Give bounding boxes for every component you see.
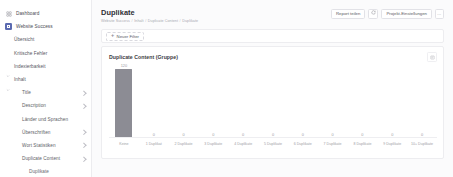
chart-bars: 1200000000000 — [109, 63, 437, 138]
sidebar-item-website-success[interactable]: Website Success — [0, 20, 91, 33]
bar-column[interactable]: 120 — [109, 63, 139, 138]
sidebar: DashboardWebsite SuccessÜbersichtKritisc… — [0, 0, 92, 177]
title-block: Duplikate Website Success/Inhalt/Duplica… — [101, 8, 331, 24]
bar[interactable] — [115, 69, 132, 138]
sidebar-item-überschriften[interactable]: Überschriften — [0, 126, 91, 139]
chart-title: Duplicate Content (Gruppe) — [109, 54, 178, 60]
bar-column[interactable]: 0 — [407, 63, 437, 138]
sidebar-item-description[interactable]: Description — [0, 99, 91, 112]
chevron-right-icon — [82, 156, 87, 161]
breadcrumb-item[interactable]: Inhalt — [134, 19, 143, 23]
sidebar-item-label: Indexierbarkeit — [14, 63, 46, 70]
app-root: DashboardWebsite SuccessÜbersichtKritisc… — [0, 0, 453, 177]
refresh-icon — [371, 9, 376, 19]
page-title: Duplikate — [101, 8, 331, 17]
sidebar-item-indexierbarkeit[interactable]: Indexierbarkeit — [0, 60, 91, 73]
share-report-button[interactable]: Report teilen — [331, 9, 365, 19]
sidebar-item-label: Title — [22, 89, 31, 96]
x-axis-tick-label: 9 Duplikate — [377, 142, 407, 146]
sidebar-item-duplikate[interactable]: Duplikate — [0, 165, 91, 177]
chevron-right-icon — [82, 143, 87, 148]
breadcrumb-item[interactable]: Duplicate Content — [148, 19, 178, 23]
bar-column[interactable]: 0 — [258, 63, 288, 138]
breadcrumb-separator: / — [145, 19, 146, 23]
x-axis-tick-label: 4 Duplikate — [228, 142, 258, 146]
sidebar-item-label: Überschriften — [22, 129, 51, 136]
sidebar-item-label: Inhalt — [14, 76, 26, 83]
header-actions: Report teilen Projekt-Einstellungen … — [331, 8, 444, 19]
bar-column[interactable]: 0 — [139, 63, 169, 138]
panel-menu-icon[interactable] — [427, 52, 437, 62]
chevron-down-icon — [6, 64, 10, 68]
sidebar-item-duplicate-content[interactable]: Duplicate Content — [0, 152, 91, 165]
bar-column[interactable]: 0 — [348, 63, 378, 138]
sidebar-item-label: Wort Statistiken — [22, 142, 56, 149]
breadcrumb-item[interactable]: Website Success — [101, 19, 130, 23]
refresh-button[interactable] — [368, 9, 378, 19]
brand-square-icon — [5, 23, 12, 30]
plus-icon: + — [111, 33, 114, 38]
sidebar-item-inhalt[interactable]: Inhalt — [0, 73, 91, 86]
new-filter-button[interactable]: + Neuer Filter — [106, 32, 144, 41]
breadcrumb-item[interactable]: Duplikate — [182, 19, 198, 23]
bar-value-label: 120 — [121, 63, 128, 68]
sidebar-item-label: Duplicate Content — [22, 155, 60, 162]
new-filter-label: Neuer Filter — [117, 34, 139, 39]
grid-icon — [5, 10, 12, 17]
x-axis-tick-label: 6 Duplikate — [288, 142, 318, 146]
breadcrumb-separator: / — [132, 19, 133, 23]
x-axis-tick-label: 1 Duplikat — [139, 142, 169, 146]
chevron-right-icon — [82, 103, 87, 108]
bar-column[interactable]: 0 — [198, 63, 228, 138]
sidebar-item-label: Übersicht — [14, 36, 34, 43]
bar-column[interactable]: 0 — [228, 63, 258, 138]
chevron-right-icon — [82, 90, 87, 95]
sidebar-item-übersicht[interactable]: Übersicht — [0, 33, 91, 46]
sidebar-item-label: Description — [22, 102, 46, 109]
x-axis-tick-label: 7 Duplikate — [318, 142, 348, 146]
chart-card: Duplicate Content (Gruppe) 1200000000000… — [101, 46, 444, 159]
more-options-button[interactable]: … — [435, 9, 444, 19]
bar-column[interactable]: 0 — [169, 63, 199, 138]
x-axis-line — [109, 137, 437, 138]
bar-chart: 1200000000000 Keine1 Duplikat2 Duplikate… — [109, 63, 437, 155]
bar-column[interactable]: 0 — [377, 63, 407, 138]
sidebar-item-kritische-fehler[interactable]: Kritische Fehler — [0, 47, 91, 60]
project-settings-button[interactable]: Projekt-Einstellungen — [381, 9, 432, 19]
sidebar-item-label: Kritische Fehler — [14, 50, 47, 57]
sidebar-item-label: Duplikate — [29, 168, 49, 175]
filter-bar: + Neuer Filter — [101, 29, 444, 43]
sidebar-item-dashboard[interactable]: Dashboard — [0, 7, 91, 20]
bar-column[interactable]: 0 — [318, 63, 348, 138]
x-axis-tick-label: 8 Duplikate — [348, 142, 378, 146]
x-axis-tick-label: 2 Duplikate — [169, 142, 199, 146]
chart-card-header: Duplicate Content (Gruppe) — [102, 47, 443, 62]
x-axis-tick-label: Keine — [109, 142, 139, 146]
x-axis-tick-label: 10+ Duplikate — [407, 142, 437, 146]
sidebar-item-länder-und-sprachen[interactable]: Länder und Sprachen — [0, 113, 91, 126]
sidebar-item-label: Website Success — [16, 23, 53, 30]
chevron-down-icon — [6, 78, 10, 82]
sidebar-item-title[interactable]: Title — [0, 86, 91, 99]
chevron-right-icon — [82, 130, 87, 135]
x-axis-labels: Keine1 Duplikat2 Duplikate3 Duplikate4 D… — [109, 139, 437, 155]
breadcrumb-separator: / — [180, 19, 181, 23]
bar-column[interactable]: 0 — [288, 63, 318, 138]
sidebar-item-label: Dashboard — [16, 10, 39, 17]
sidebar-item-wort-statistiken[interactable]: Wort Statistiken — [0, 139, 91, 152]
x-axis-tick-label: 5 Duplikate — [258, 142, 288, 146]
page-header: Duplikate Website Success/Inhalt/Duplica… — [92, 0, 453, 28]
sidebar-item-label: Länder und Sprachen — [22, 116, 68, 123]
x-axis-tick-label: 3 Duplikate — [198, 142, 228, 146]
breadcrumb: Website Success/Inhalt/Duplicate Content… — [101, 19, 331, 24]
main-content: Duplikate Website Success/Inhalt/Duplica… — [92, 0, 453, 177]
